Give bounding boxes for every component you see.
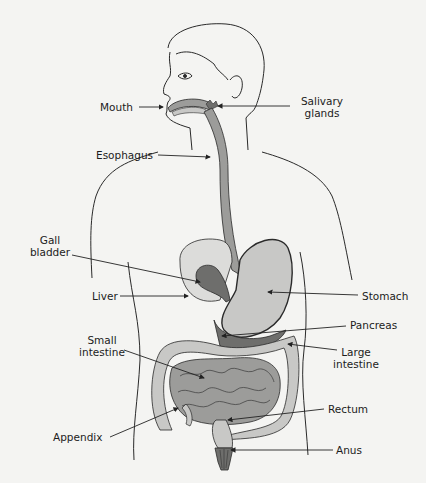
label-small-intestine: Small intestine	[74, 334, 130, 358]
label-rectum: Rectum	[328, 403, 368, 415]
label-large-line1: Large	[328, 346, 384, 358]
label-salivary-line1: Salivary	[296, 95, 348, 107]
label-salivary-line2: glands	[296, 107, 348, 119]
label-mouth: Mouth	[100, 101, 133, 113]
digestive-system-diagram: Mouth Salivary glands Esophagus Gall bla…	[0, 0, 426, 483]
label-gall-line1: Gall	[26, 234, 74, 246]
label-salivary-glands: Salivary glands	[296, 95, 348, 119]
label-gall-line2: bladder	[26, 246, 74, 258]
label-stomach: Stomach	[362, 290, 408, 302]
label-large-line2: intestine	[328, 358, 384, 370]
ear	[230, 76, 242, 98]
label-appendix: Appendix	[53, 431, 102, 443]
label-small-line1: Small	[74, 334, 130, 346]
label-liver: Liver	[92, 290, 118, 302]
label-gall-bladder: Gall bladder	[26, 234, 74, 258]
waist-left	[128, 262, 140, 460]
torso-outline-left	[91, 152, 158, 278]
label-pancreas: Pancreas	[350, 319, 397, 331]
label-large-intestine: Large intestine	[328, 346, 384, 370]
label-anus: Anus	[336, 444, 362, 456]
label-esophagus: Esophagus	[96, 149, 153, 161]
label-small-line2: intestine	[74, 346, 130, 358]
waist-right	[300, 252, 308, 455]
